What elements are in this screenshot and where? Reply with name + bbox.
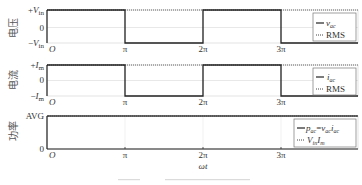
power-legend: pac=vaciac VinIm bbox=[294, 119, 356, 147]
caption-fragment bbox=[118, 179, 250, 180]
current-legend: iac RMS bbox=[313, 68, 356, 95]
voltage-panel: 电压 +Vin 0 −Vin vac RMS O π 2π 3π bbox=[7, 5, 358, 54]
voltage-legend: vac RMS bbox=[313, 13, 356, 41]
ytick-avg: AVG bbox=[26, 111, 45, 121]
ytick-zero: 0 bbox=[40, 144, 45, 154]
xtick-origin: O bbox=[49, 150, 56, 160]
xtick-origin: O bbox=[49, 44, 56, 54]
current-panel: 电流 +Im 0 −Im iac RMS O π 2π 3π bbox=[7, 60, 358, 107]
ytick-zero: 0 bbox=[40, 23, 45, 33]
ytick-minus-im: −Im bbox=[30, 91, 44, 103]
xtick-pi: π bbox=[123, 150, 128, 160]
xtick-2pi: 2π bbox=[198, 44, 208, 54]
xtick-pi: π bbox=[123, 97, 128, 107]
ytick-minus-vin: −Vin bbox=[28, 38, 45, 50]
voltage-axis-label: 电压 bbox=[7, 18, 19, 38]
xtick-2pi: 2π bbox=[198, 150, 208, 160]
xtick-3pi: 3π bbox=[276, 150, 286, 160]
legend-rms: RMS bbox=[326, 84, 345, 94]
ytick-zero: 0 bbox=[40, 75, 45, 85]
xtick-pi: π bbox=[123, 44, 128, 54]
legend-rms: RMS bbox=[326, 30, 345, 40]
vac-waveform bbox=[47, 10, 358, 43]
waveform-figure: 电压 +Vin 0 −Vin vac RMS O π 2π 3π 电流 +Im … bbox=[0, 0, 362, 185]
ytick-plus-vin: +Vin bbox=[28, 5, 45, 17]
xtick-origin: O bbox=[49, 97, 56, 107]
current-axis-label: 电流 bbox=[7, 70, 19, 90]
ytick-plus-im: +Im bbox=[30, 60, 44, 72]
xtick-3pi: 3π bbox=[276, 97, 286, 107]
power-panel: 功率 AVG 0 pac=vaciac VinIm O π 2π 3π ωt bbox=[7, 111, 358, 171]
xtick-2pi: 2π bbox=[198, 97, 208, 107]
xtick-3pi: 3π bbox=[276, 44, 286, 54]
power-axis-label: 功率 bbox=[7, 121, 19, 141]
x-axis-label: ωt bbox=[199, 161, 208, 171]
